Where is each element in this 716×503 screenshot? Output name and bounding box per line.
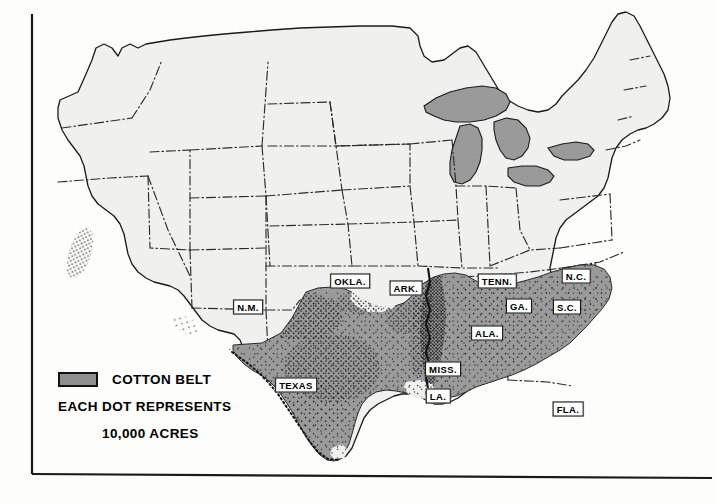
cotton-belt-swatch-label: COTTON BELT [112,372,211,387]
state-label-ark: ARK. [390,281,423,296]
legend-cotton-belt-row: COTTON BELT [58,372,231,387]
state-label-texas: TEXAS [275,378,317,393]
state-label-sc: S.C. [553,300,581,315]
state-label-nc: N.C. [562,269,591,284]
state-label-tenn: TENN. [478,274,517,289]
state-label-la: LA. [426,389,451,404]
state-label-nm: N.M. [233,300,263,315]
state-label-ga: GA. [506,299,532,314]
cotton-belt-swatch [58,372,98,387]
map-legend: COTTON BELT EACH DOT REPRESENTS 10,000 A… [58,372,231,441]
state-label-miss: MISS. [425,362,461,377]
legend-dot-explanation-line2: 10,000 ACRES [102,426,231,441]
legend-dot-explanation-line1: EACH DOT REPRESENTS [58,399,231,414]
state-label-fla: FLA. [553,402,584,417]
cotton-belt-figure: N.M. OKLA. ARK. TENN. N.C. GA. S.C. ALA.… [0,0,716,503]
state-label-ala: ALA. [471,326,503,341]
state-label-okla: OKLA. [330,274,370,289]
